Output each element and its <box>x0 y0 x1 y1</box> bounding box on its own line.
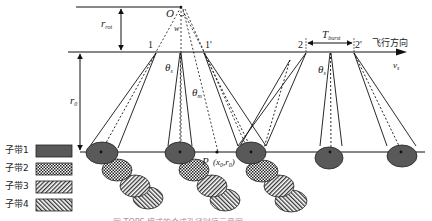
legend-label-1: 子带1 <box>5 145 29 155</box>
target-coords-label: (x0,r0) <box>213 157 235 168</box>
legend-label-3: 子带3 <box>5 181 29 191</box>
legend: 子带1 子带2 子带3 子带4 <box>5 145 72 211</box>
r0-label: r0 <box>70 94 77 107</box>
legend-swatch-2 <box>36 163 72 175</box>
beam-cones <box>90 53 416 150</box>
theta-s-label-2: θs <box>318 63 326 76</box>
theta-m-label: θm <box>192 86 202 99</box>
point-2p-label: 2' <box>355 39 362 50</box>
omega-label: w <box>174 24 180 33</box>
flight-direction-arrow-icon <box>396 49 407 56</box>
legend-swatch-3 <box>36 181 72 193</box>
legend-swatch-1 <box>36 145 72 157</box>
origin-label: O <box>166 7 174 19</box>
r-rot-label: rrot <box>101 17 112 30</box>
legend-swatch-4 <box>36 199 72 211</box>
footprint-single-2 <box>387 145 417 167</box>
target-point-p <box>215 150 218 153</box>
t-burst-label: Tburst <box>322 28 341 41</box>
point-2-label: 2 <box>298 39 303 50</box>
flight-direction-label: 飞行方向 <box>372 37 408 48</box>
figure-caption: 图 TOPS 模式的合成孔径时序示意图 <box>113 217 243 221</box>
point-1p-label: 1' <box>205 39 212 50</box>
legend-label-2: 子带2 <box>5 163 29 173</box>
legend-label-4: 子带4 <box>5 199 29 209</box>
velocity-label: vs <box>393 60 400 71</box>
theta-s-label-1: θs <box>165 61 173 74</box>
tops-geometry-diagram: rrot r0 O w 1 1' 2 2' Tburst 飞行方向 vs <box>0 0 432 221</box>
target-p-label: P <box>201 155 209 167</box>
footprint-single-1 <box>315 147 343 169</box>
point-1-label: 1 <box>148 39 153 50</box>
